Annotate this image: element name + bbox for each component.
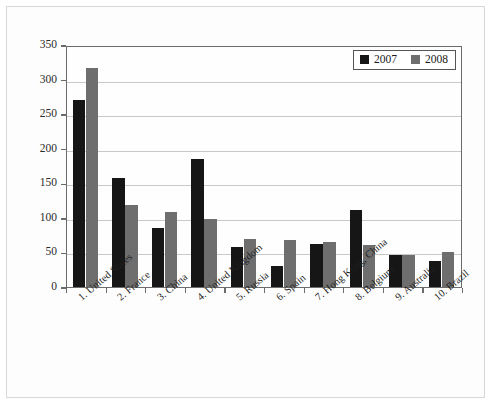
legend-entry-2008: 2008 — [411, 54, 448, 66]
bar-2007 — [271, 266, 284, 287]
bar-2007 — [191, 159, 204, 287]
x-tick-mark — [145, 288, 146, 293]
legend-label-2008: 2008 — [425, 54, 448, 66]
x-tick-mark — [106, 288, 107, 293]
legend-entry-2007: 2007 — [360, 54, 397, 66]
x-tick-mark — [224, 288, 225, 293]
x-tick-mark — [185, 288, 186, 293]
y-tick-label: 50 — [0, 245, 57, 257]
chart-page: 050100150200250300350 1. United States2.… — [0, 0, 493, 406]
chart-legend: 2007 2008 — [353, 50, 456, 70]
legend-label-2007: 2007 — [374, 54, 397, 66]
x-tick-mark — [462, 288, 463, 293]
bar-2008 — [86, 68, 99, 287]
legend-swatch-2007-icon — [360, 55, 369, 64]
bar-2007 — [73, 100, 86, 287]
y-tick-label: 300 — [0, 73, 57, 85]
y-tick-label: 200 — [0, 142, 57, 154]
bar-2007 — [152, 228, 165, 287]
y-tick-label: 0 — [0, 280, 57, 292]
bar-2007 — [310, 244, 323, 287]
x-tick-mark — [383, 288, 384, 293]
y-tick-label: 350 — [0, 38, 57, 50]
x-tick-mark — [304, 288, 305, 293]
y-tick-label: 100 — [0, 211, 57, 223]
legend-swatch-2008-icon — [411, 55, 420, 64]
y-tick-label: 150 — [0, 176, 57, 188]
y-tick-label: 250 — [0, 107, 57, 119]
x-tick-mark — [264, 288, 265, 293]
x-tick-mark — [66, 288, 67, 293]
x-tick-mark — [343, 288, 344, 293]
x-tick-mark — [422, 288, 423, 293]
